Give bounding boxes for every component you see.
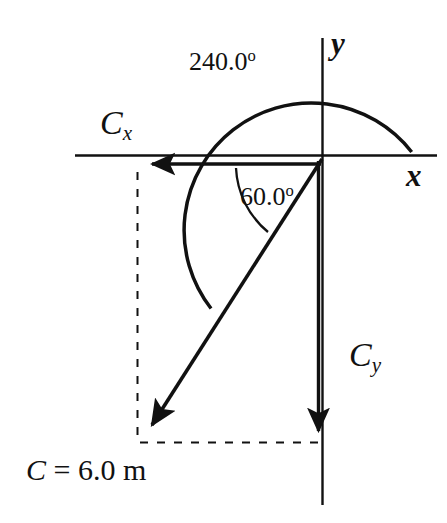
angle-60-value: 60.0: [240, 182, 286, 211]
magnitude-unit: m: [123, 453, 146, 486]
angle-60-label: 60.0o: [240, 183, 294, 210]
magnitude-value: 6.0: [78, 453, 116, 486]
cx-component-label: Cx: [100, 106, 132, 144]
magnitude-symbol: C: [26, 453, 46, 486]
x-axis-label: x: [406, 160, 422, 191]
degree-symbol-icon: o: [286, 181, 294, 200]
cx-symbol: C: [100, 104, 123, 141]
cy-symbol: C: [349, 336, 372, 373]
vector-diagram: y x Cx Cy 240.0o 60.0o C = 6.0 m: [0, 0, 447, 523]
cy-subscript: y: [372, 353, 381, 377]
cy-component-label: Cy: [349, 338, 381, 376]
degree-symbol-icon: o: [248, 46, 256, 65]
magnitude-label: C = 6.0 m: [26, 455, 146, 485]
y-axis-label: y: [331, 28, 345, 59]
angle-240-label: 240.0o: [189, 48, 256, 75]
magnitude-equals: =: [54, 453, 71, 486]
resultant-vector-arrow: [152, 159, 322, 425]
cx-subscript: x: [123, 121, 132, 145]
angle-arc-240: [184, 103, 412, 309]
vector-diagram-canvas: [0, 0, 447, 523]
angle-240-value: 240.0: [189, 47, 248, 76]
